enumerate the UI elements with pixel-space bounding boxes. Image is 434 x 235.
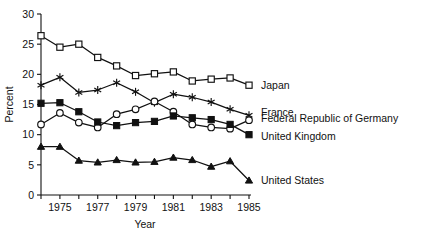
data-point [170,113,176,119]
data-point [227,75,233,81]
data-point [132,106,139,113]
series-line [41,101,249,128]
data-point [189,115,195,121]
y-axis-tick-labels: 051015202530 [22,8,34,201]
x-tick-label: 1985 [237,201,261,213]
line-chart: 051015202530 197519771979198119831985 Pe… [0,0,434,235]
x-axis-title: Year [134,218,156,230]
x-tick-label: 1975 [48,201,72,213]
data-point [132,88,139,96]
data-point [227,105,234,113]
series-line [41,36,249,85]
data-point [38,121,45,128]
data-point [132,72,138,78]
data-point [76,109,82,115]
x-axis-ticks [41,195,249,199]
y-tick-label: 20 [22,68,34,80]
y-tick-label: 30 [22,8,34,20]
chart-canvas: 051015202530 197519771979198119831985 Pe… [0,0,434,235]
y-tick-label: 0 [28,189,34,201]
data-point [38,81,45,89]
x-tick-label: 1979 [124,201,148,213]
x-tick-label: 1977 [86,201,110,213]
legend-label-japan: Japan [261,79,290,91]
y-tick-label: 10 [22,128,34,140]
data-point [246,82,252,88]
data-point [113,79,120,87]
data-point [208,124,215,131]
chart-legend: JapanFranceFederal Republic of GermanyUn… [261,79,399,186]
data-point [208,116,214,122]
data-point [151,118,157,124]
data-point [113,111,120,118]
data-point [114,63,120,69]
data-point [114,123,120,129]
y-tick-label: 25 [22,38,34,50]
legend-label-united-states: United States [261,174,324,186]
data-point [38,33,44,39]
data-point [76,119,83,126]
data-point [151,98,158,105]
y-axis-title: Percent [3,86,15,122]
x-tick-label: 1981 [162,201,186,213]
legend-label-united-kingdom: United Kingdom [261,130,336,142]
x-axis-tick-labels: 197519771979198119831985 [48,201,261,213]
data-point [189,121,196,128]
y-tick-label: 5 [28,159,34,171]
data-point [208,76,214,82]
data-point [95,119,101,125]
series-france [38,73,253,119]
legend-label-federal-republic-of-germany: Federal Republic of Germany [261,112,399,124]
series-line [41,77,249,115]
data-point [113,156,120,162]
data-point [95,54,101,60]
data-point [75,157,82,163]
data-point [151,71,157,77]
series-layer [37,33,252,184]
data-point [189,78,195,84]
series-federal-republic-of-germany [38,98,253,132]
data-point [227,121,233,127]
data-point [226,158,233,164]
data-point [57,44,63,50]
y-tick-label: 15 [22,98,34,110]
series-united-states [37,143,252,183]
data-point [170,69,176,75]
series-line [41,147,249,181]
series-japan [38,33,252,89]
data-point [76,41,82,47]
data-point [170,154,177,160]
data-point [57,100,63,106]
data-point [246,117,253,124]
x-tick-label: 1983 [200,201,224,213]
data-point [57,110,64,117]
data-point [56,73,63,81]
data-point [132,120,138,126]
data-point [38,100,44,106]
data-point [246,132,252,138]
